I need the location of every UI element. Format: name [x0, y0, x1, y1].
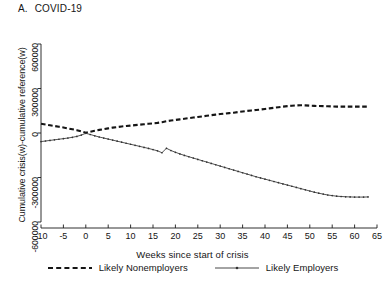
legend-swatch-solid [214, 263, 260, 273]
legend-label-nonemployers: Likely Nonemployers [99, 262, 188, 273]
x-axis-label: Weeks since start of crisis [0, 249, 385, 260]
chart-legend: Likely Nonemployers Likely Employers [0, 262, 385, 273]
y-tick-label: 600000 [30, 43, 40, 103]
axis-lines [38, 44, 378, 228]
legend-item-nonemployers: Likely Nonemployers [47, 262, 188, 273]
plot-canvas [0, 0, 385, 286]
panel-title-text: COVID-19 [35, 3, 82, 14]
page-title: A.COVID-19 [18, 3, 82, 14]
legend-label-employers: Likely Employers [266, 262, 339, 273]
data-series-group [40, 105, 369, 198]
y-axis-label: Cumulative crisis(w)-cumulative referenc… [17, 35, 27, 235]
chart-figure: A.COVID-19 Cumulative crisis(w)-cumulati… [0, 0, 385, 286]
x-tick-label: 65 [362, 231, 385, 241]
panel-letter: A. [18, 3, 28, 14]
legend-swatch-dashed [47, 263, 93, 273]
legend-item-employers: Likely Employers [214, 262, 339, 273]
